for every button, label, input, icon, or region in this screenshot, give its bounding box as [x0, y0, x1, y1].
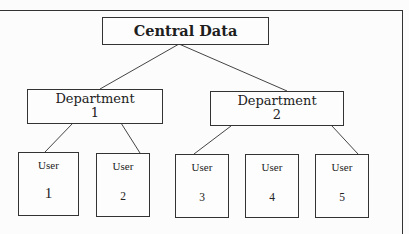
edge-central-to-dept1 [100, 44, 179, 89]
user-label: User [246, 161, 298, 174]
user-label: User [19, 159, 78, 172]
department-label: Department [237, 93, 316, 108]
diagram-canvas: Central Data Department 1 Department 2 U… [0, 0, 409, 234]
department-number: 2 [211, 108, 343, 122]
department-number: 1 [28, 106, 162, 120]
edge-dept1-to-user1 [45, 123, 73, 152]
user-number: 1 [19, 187, 78, 200]
edge-dept2-to-user3 [194, 126, 231, 154]
central-data-node: Central Data [102, 17, 269, 45]
user-1-node: User 1 [18, 152, 79, 216]
user-number: 2 [97, 190, 149, 203]
user-2-node: User 2 [96, 153, 150, 217]
edge-dept1-to-user2 [121, 123, 140, 153]
user-label: User [316, 161, 368, 174]
user-5-node: User 5 [315, 154, 369, 218]
edge-central-to-dept2 [179, 44, 287, 91]
user-number: 5 [316, 191, 368, 204]
user-label: User [176, 161, 228, 174]
edge-dept2-to-user5 [332, 126, 358, 154]
user-label: User [97, 160, 149, 173]
central-data-label: Central Data [134, 22, 238, 39]
department-label: Department [55, 91, 134, 106]
department-2-node: Department 2 [210, 91, 344, 126]
department-1-node: Department 1 [27, 89, 163, 124]
user-number: 4 [246, 191, 298, 204]
user-number: 3 [176, 191, 228, 204]
user-3-node: User 3 [175, 154, 229, 218]
user-4-node: User 4 [245, 154, 299, 218]
